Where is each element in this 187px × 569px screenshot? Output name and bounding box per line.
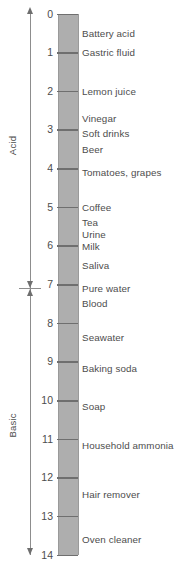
tick-label-1: 1 bbox=[34, 47, 53, 58]
substance-label-oven-cleaner: Oven cleaner bbox=[82, 535, 141, 545]
substance-label-seawater: Seawater bbox=[82, 333, 124, 343]
substance-label-milk: Milk bbox=[82, 242, 100, 252]
tick-mark-7 bbox=[57, 284, 78, 286]
tick-mark-0 bbox=[57, 14, 78, 16]
tick-label-7: 7 bbox=[34, 279, 53, 290]
substance-label-hair-remover: Hair remover bbox=[82, 490, 140, 500]
substance-label-baking-soda: Baking soda bbox=[82, 364, 137, 374]
acid-range-axis-line bbox=[30, 14, 31, 288]
substance-label-lemon-juice: Lemon juice bbox=[82, 87, 136, 97]
range-label-acid: Acid bbox=[7, 134, 18, 158]
basic-range-axis-line bbox=[30, 288, 31, 555]
tick-mark-6 bbox=[57, 245, 78, 247]
tick-label-9: 9 bbox=[34, 356, 53, 367]
acid-range-top-arrow-icon bbox=[27, 7, 33, 14]
ph-scale-figure: Acid Basic 0 1 2 3 4 5 6 7 8 9 10 11 12 … bbox=[0, 0, 187, 569]
substance-label-household-ammonia: Household ammonia bbox=[82, 441, 174, 451]
basic-range-bottom-arrow-icon bbox=[27, 548, 33, 555]
tick-label-8: 8 bbox=[34, 318, 53, 329]
tick-mark-2 bbox=[57, 91, 78, 93]
substance-label-soap: Soap bbox=[82, 402, 105, 412]
tick-label-10: 10 bbox=[34, 395, 53, 406]
tick-label-6: 6 bbox=[34, 240, 53, 251]
acid-range-bottom-arrow-icon bbox=[27, 281, 33, 288]
tick-label-0: 0 bbox=[34, 9, 53, 20]
tick-label-13: 13 bbox=[34, 511, 53, 522]
tick-mark-10 bbox=[57, 400, 78, 402]
substance-label-urine: Urine bbox=[82, 230, 106, 240]
substance-label-tomatoes-grapes: Tomatoes, grapes bbox=[82, 168, 161, 178]
tick-mark-3 bbox=[57, 129, 78, 131]
tick-label-4: 4 bbox=[34, 163, 53, 174]
tick-mark-11 bbox=[57, 439, 78, 441]
substance-label-blood: Blood bbox=[82, 299, 108, 309]
substance-label-battery-acid: Battery acid bbox=[82, 29, 135, 39]
substance-label-soft-drinks: Soft drinks bbox=[82, 129, 129, 139]
tick-mark-14 bbox=[57, 555, 78, 557]
tick-label-14: 14 bbox=[34, 550, 53, 561]
tick-mark-1 bbox=[57, 52, 78, 54]
substance-label-gastric-fluid: Gastric fluid bbox=[82, 48, 135, 58]
tick-label-2: 2 bbox=[34, 86, 53, 97]
substance-label-vinegar: Vinegar bbox=[82, 114, 116, 124]
substance-label-tea: Tea bbox=[82, 218, 98, 228]
tick-label-11: 11 bbox=[34, 434, 53, 445]
tick-mark-12 bbox=[57, 477, 78, 479]
tick-mark-13 bbox=[57, 516, 78, 518]
substance-label-coffee: Coffee bbox=[82, 203, 111, 213]
basic-range-top-arrow-icon bbox=[27, 289, 33, 296]
substance-label-pure-water: Pure water bbox=[82, 284, 130, 294]
tick-label-12: 12 bbox=[34, 472, 53, 483]
tick-label-3: 3 bbox=[34, 124, 53, 135]
range-label-basic: Basic bbox=[7, 414, 18, 438]
substance-label-saliva: Saliva bbox=[82, 261, 109, 271]
tick-label-5: 5 bbox=[34, 202, 53, 213]
tick-mark-9 bbox=[57, 361, 78, 363]
tick-mark-8 bbox=[57, 323, 78, 325]
tick-mark-5 bbox=[57, 207, 78, 209]
tick-mark-4 bbox=[57, 168, 78, 170]
substance-label-beer: Beer bbox=[82, 145, 103, 155]
